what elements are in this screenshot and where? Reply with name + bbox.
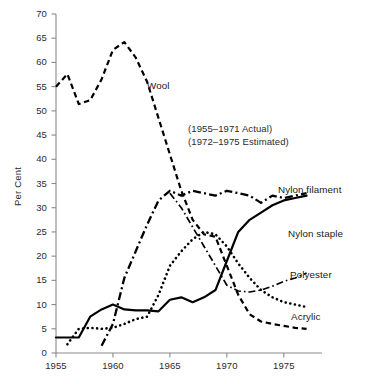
chart-annotation-2: (1972–1975 Estimated) xyxy=(188,136,289,147)
series-label-nylon-staple: Nylon staple xyxy=(288,228,343,239)
series-line-acrylic xyxy=(67,232,306,344)
series-line-polyester xyxy=(170,193,307,292)
x-tick-label: 1970 xyxy=(207,360,247,371)
series-line-nylon-filament xyxy=(102,191,307,346)
chart-container: 0510152025303540455055606570 19551960196… xyxy=(0,0,366,384)
y-tick-label: 35 xyxy=(23,178,47,189)
series-label-acrylic: Acrylic xyxy=(291,311,321,322)
y-tick-label: 0 xyxy=(23,347,47,358)
y-tick-label: 20 xyxy=(23,250,47,261)
x-tick-label: 1960 xyxy=(93,360,133,371)
x-tick-label: 1965 xyxy=(150,360,190,371)
y-tick-label: 70 xyxy=(23,8,47,19)
series-line-nylon-staple xyxy=(56,196,307,338)
x-tick-label: 1975 xyxy=(264,360,304,371)
series-label-wool: Wool xyxy=(147,80,170,91)
y-tick-label: 30 xyxy=(23,202,47,213)
y-tick-label: 60 xyxy=(23,56,47,67)
series-label-polyester: Polyester xyxy=(290,269,332,280)
y-tick-label: 5 xyxy=(23,323,47,334)
chart-annotation-1: (1955–1971 Actual) xyxy=(188,123,272,134)
y-tick-label: 65 xyxy=(23,32,47,43)
y-tick-label: 50 xyxy=(23,105,47,116)
y-axis-title: Per Cent xyxy=(12,166,23,205)
y-tick-label: 40 xyxy=(23,153,47,164)
series-label-nylon-filament: Nylon filament xyxy=(278,184,341,195)
y-tick-label: 25 xyxy=(23,226,47,237)
y-tick-label: 15 xyxy=(23,274,47,285)
x-tick-label: 1955 xyxy=(36,360,76,371)
y-tick-label: 45 xyxy=(23,129,47,140)
y-tick-label: 10 xyxy=(23,299,47,310)
series-line-wool xyxy=(56,42,307,329)
y-tick-label: 55 xyxy=(23,81,47,92)
